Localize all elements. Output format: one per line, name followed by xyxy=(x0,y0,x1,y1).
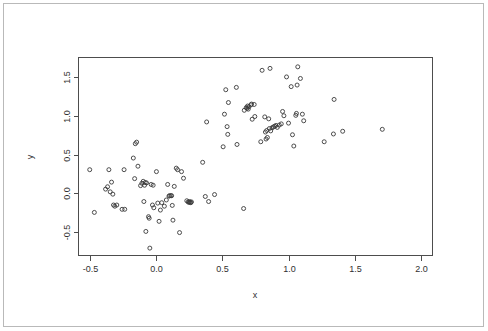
y-tick-label: -0.5 xyxy=(62,225,72,241)
y-axis-ticks: -0.50.00.51.01.5 xyxy=(62,71,79,240)
scatter-point xyxy=(296,65,300,69)
scatter-point xyxy=(164,198,168,202)
scatter-point xyxy=(144,229,148,233)
scatter-point xyxy=(282,114,286,118)
scatter-point xyxy=(136,164,140,168)
scatter-point xyxy=(157,219,161,223)
scatter-point xyxy=(172,184,176,188)
scatter-point xyxy=(205,120,209,124)
scatter-point xyxy=(259,140,263,144)
scatter-point xyxy=(285,75,289,79)
scatter-point xyxy=(253,115,257,119)
y-tick-label: 1.5 xyxy=(62,71,72,84)
x-tick-label: -0.5 xyxy=(83,264,99,274)
scatter-point xyxy=(203,194,207,198)
scatter-point xyxy=(171,218,175,222)
scatter-point xyxy=(224,88,228,92)
scatter-point xyxy=(221,145,225,149)
scatter-point xyxy=(111,192,115,196)
scatter-point xyxy=(322,140,326,144)
scatter-point xyxy=(142,200,146,204)
scatter-point xyxy=(182,176,186,180)
y-axis-title: y xyxy=(25,154,35,159)
scatter-point xyxy=(234,85,238,89)
scatter-point xyxy=(156,201,160,205)
scatter-point xyxy=(180,170,184,174)
scatter-point xyxy=(122,168,126,172)
scatter-point xyxy=(341,129,345,133)
scatter-point xyxy=(207,200,211,204)
scatter-point xyxy=(131,156,135,160)
scatter-point xyxy=(107,168,111,172)
scatter-point xyxy=(222,112,226,116)
x-tick-label: 2.0 xyxy=(415,264,428,274)
scatter-point xyxy=(302,119,306,123)
scatter-point xyxy=(281,109,285,113)
scatter-point xyxy=(300,112,304,116)
scatter-point xyxy=(295,83,299,87)
scatter-point xyxy=(235,142,239,146)
scatter-point xyxy=(289,85,293,89)
scatter-point xyxy=(287,121,291,125)
x-tick-label: 1.0 xyxy=(283,264,296,274)
scatter-point xyxy=(331,132,335,136)
x-axis-ticks: -0.50.00.51.01.52.0 xyxy=(83,256,428,274)
scatter-point xyxy=(267,117,271,121)
scatter-point xyxy=(92,210,96,214)
scatter-point xyxy=(263,115,267,119)
scatter-point xyxy=(133,177,137,181)
scatter-point xyxy=(332,97,336,101)
scatter-point xyxy=(88,168,92,172)
scatter-point xyxy=(110,180,114,184)
scatter-point xyxy=(298,76,302,80)
scatter-point xyxy=(242,207,246,211)
scatter-point xyxy=(162,204,166,208)
scatter-point xyxy=(123,207,127,211)
scatter-point xyxy=(158,208,162,212)
scatter-point xyxy=(166,182,170,186)
scatter-point xyxy=(148,246,152,250)
scatter-point xyxy=(154,170,158,174)
x-tick-label: 0.5 xyxy=(216,264,229,274)
scatter-plot-figure: -0.50.00.51.01.52.0 -0.50.00.51.01.5 x y xyxy=(0,0,488,331)
plot-canvas: -0.50.00.51.01.52.0 -0.50.00.51.01.5 x y xyxy=(0,0,488,331)
scatter-point xyxy=(292,144,296,148)
scatter-points-group xyxy=(88,65,385,250)
scatter-point xyxy=(268,66,272,70)
scatter-point xyxy=(226,132,230,136)
scatter-point xyxy=(260,68,264,72)
x-tick-label: 1.5 xyxy=(349,264,362,274)
scatter-point xyxy=(201,160,205,164)
scatter-point xyxy=(170,203,174,207)
y-tick-label: 0.0 xyxy=(62,187,72,200)
scatter-point xyxy=(226,101,230,105)
screenshot-root: -0.50.00.51.01.52.0 -0.50.00.51.01.5 x y xyxy=(0,0,488,331)
scatter-point xyxy=(213,193,217,197)
y-tick-label: 0.5 xyxy=(62,149,72,162)
scatter-point xyxy=(225,125,229,129)
scatter-point xyxy=(290,133,294,137)
x-tick-label: 0.0 xyxy=(150,264,163,274)
scatter-point xyxy=(380,127,384,131)
scatter-point xyxy=(178,231,182,235)
y-tick-label: 1.0 xyxy=(62,110,72,123)
x-axis-title: x xyxy=(253,290,258,300)
